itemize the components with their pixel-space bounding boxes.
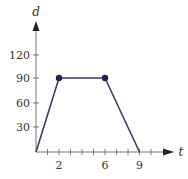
y-tick-60: 60 xyxy=(16,97,30,110)
data-point-6-90 xyxy=(102,75,108,81)
y-axis-arrow-icon xyxy=(33,21,40,31)
y-tick-120: 120 xyxy=(9,49,30,62)
x-tick-9: 9 xyxy=(136,159,143,172)
x-tick-6: 6 xyxy=(102,159,109,172)
data-line xyxy=(36,78,140,152)
chart: 120 90 60 30 d 2 6 9 t xyxy=(0,0,188,179)
x-axis-label: t xyxy=(179,145,184,159)
y-axis: 120 90 60 30 d xyxy=(9,5,40,152)
x-axis: 2 6 9 t xyxy=(36,145,184,172)
y-tick-30: 30 xyxy=(16,121,30,134)
data-point-2-90 xyxy=(56,75,62,81)
x-axis-arrow-icon xyxy=(163,149,174,156)
y-axis-label: d xyxy=(32,5,40,19)
y-tick-90: 90 xyxy=(16,72,30,85)
x-tick-2: 2 xyxy=(56,159,63,172)
